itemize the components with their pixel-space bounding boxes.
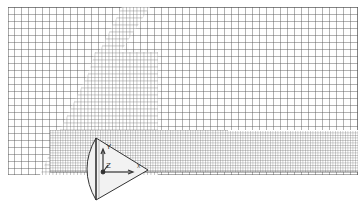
y-axis-label: Y [106,142,112,151]
z-axis-label: Z [106,161,111,170]
mesh-diagram: Y Z X [0,0,362,214]
mesh-viewport: Y Z X [0,0,362,214]
